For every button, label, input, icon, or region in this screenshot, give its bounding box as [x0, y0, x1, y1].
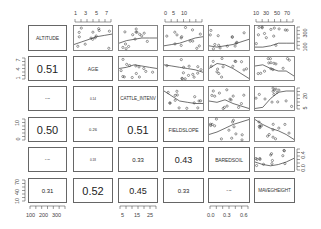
left-tick: 0: [15, 137, 21, 140]
cor-baredsoil-age: 0.18: [73, 147, 113, 172]
bottom-tick: 200: [39, 212, 48, 218]
left-tick: 10: [14, 198, 20, 204]
left-tick: 7: [15, 58, 21, 61]
cor-fieldslope-age: 0.26: [73, 117, 113, 142]
right-tick: 0.0: [300, 164, 306, 172]
bottom-tick: 25: [147, 212, 153, 218]
variable-label: CATTLE_INTENV: [120, 96, 155, 101]
cor-baredsoil-fieldslope: 0.43: [163, 147, 204, 172]
correlation-value: 0.33: [132, 157, 144, 163]
bottom-tick: 0.6: [240, 212, 248, 218]
correlation-value: 0.05: [227, 189, 232, 192]
top-tick: 0: [164, 10, 167, 16]
scatter-panel-frame: [119, 57, 158, 81]
top-tick: 3: [84, 10, 87, 16]
diag-mavegheight: MAVEGHEIGHT: [254, 178, 295, 203]
diag-cattle-intenv: CATTLE_INTENV: [118, 86, 158, 111]
bottom-tick: 15: [134, 212, 140, 218]
cor-cattle-age: 0.14: [73, 86, 113, 111]
variable-label: ALTITUDE: [36, 35, 59, 41]
top-tick: 10: [181, 10, 187, 16]
left-tick: 4: [15, 67, 21, 70]
cor-mavegheight-age: 0.52: [73, 178, 113, 203]
right-tick: 5: [302, 106, 308, 109]
diag-age: AGE: [73, 56, 113, 81]
cor-cattle-altitude: 0.11: [28, 86, 67, 111]
right-tick: 100: [302, 42, 308, 51]
variable-label: MAVEGHEIGHT: [258, 188, 291, 193]
cor-fieldslope-altitude: 0.50: [28, 117, 67, 142]
diag-altitude: ALTITUDE: [28, 25, 67, 51]
top-tick: 5: [95, 10, 98, 16]
correlation-value: 0.50: [37, 124, 58, 136]
correlation-value: 0.31: [42, 188, 54, 194]
correlation-value: 0.33: [178, 188, 190, 194]
top-tick: 10: [253, 10, 259, 16]
scatter-panel-frame: [255, 87, 295, 111]
left-tick: 70: [14, 179, 20, 185]
top-tick: 7: [105, 10, 108, 16]
left-tick: 10: [14, 120, 20, 126]
cor-fieldslope-cattle: 0.51: [118, 117, 158, 142]
left-tick: 40: [14, 189, 20, 195]
correlation-value: 0.10: [45, 158, 50, 161]
variable-label: BAREDSOIL: [215, 157, 243, 163]
bottom-tick: 100: [26, 212, 35, 218]
scatter-panel-frame: [255, 57, 295, 81]
correlation-value: 0.18: [90, 158, 96, 162]
bottom-tick: 5: [121, 212, 124, 218]
variable-label: FIELDSLOPE: [169, 127, 199, 133]
correlation-value: 0.43: [175, 155, 193, 165]
cor-age-altitude: 0.51: [28, 56, 67, 81]
top-tick: 30: [263, 10, 269, 16]
right-tick: 20: [302, 93, 308, 99]
bottom-tick: 0.0: [207, 212, 215, 218]
correlation-value: 0.26: [89, 127, 97, 132]
correlation-value: 0.52: [82, 185, 103, 197]
correlation-value: 0.14: [90, 97, 96, 101]
cor-mavegheight-fieldslope: 0.33: [163, 178, 204, 203]
diag-fieldslope: FIELDSLOPE: [163, 117, 204, 142]
cor-mavegheight-cattle: 0.45: [118, 178, 158, 203]
correlation-value: 0.51: [37, 63, 58, 75]
correlation-value: 0.11: [45, 97, 50, 100]
correlation-value: 0.45: [129, 186, 147, 196]
scatter-panel-frame: [164, 26, 204, 51]
right-tick: 0.4: [300, 151, 306, 159]
scatter-panel-frame: [209, 57, 250, 81]
cor-baredsoil-cattle: 0.33: [118, 147, 158, 172]
variable-label: AGE: [88, 66, 98, 72]
top-tick: 50: [274, 10, 280, 16]
diag-baredsoil: BAREDSOIL: [208, 147, 250, 172]
right-tick: 300: [302, 28, 308, 37]
left-tick: 1: [15, 76, 21, 79]
top-tick: 1: [74, 10, 77, 16]
top-tick: 5: [172, 10, 175, 16]
bottom-tick: 300: [52, 212, 61, 218]
correlation-value: 0.51: [127, 124, 148, 136]
top-tick: 70: [284, 10, 290, 16]
bottom-tick: 0.3: [223, 212, 231, 218]
cor-mavegheight-baredsoil: 0.05: [208, 178, 250, 203]
pairs-plot-matrix: ALTITUDE AGE CATTLE_INTENV FIELDSLOPE BA…: [0, 0, 321, 229]
cor-mavegheight-altitude: 0.31: [28, 178, 67, 203]
cor-baredsoil-altitude: 0.10: [28, 147, 67, 172]
